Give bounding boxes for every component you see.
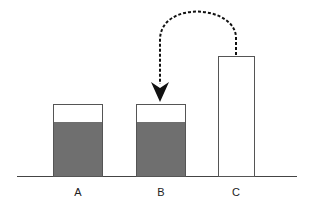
transfer-arrow-icon bbox=[0, 0, 311, 209]
